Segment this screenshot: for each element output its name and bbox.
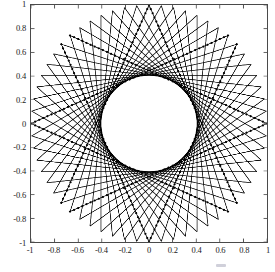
x-tick-label: 0.4	[192, 245, 202, 255]
x-tick-label: 0	[147, 245, 151, 255]
y-tick-label: -0.6	[0, 190, 26, 200]
x-tick-label: -1	[27, 245, 34, 255]
y-tick-label: 0.2	[0, 95, 26, 105]
x-tick-label: 1	[266, 245, 270, 255]
x-tick-label: -0.6	[71, 245, 84, 255]
y-tick-label: 1	[0, 0, 26, 9]
x-tick-label: -0.2	[119, 245, 132, 255]
y-tick-label: -1	[0, 238, 26, 248]
y-tick-label: -0.2	[0, 142, 26, 152]
faint-watermark-mark	[216, 264, 226, 267]
y-tick-label: -0.4	[0, 166, 26, 176]
y-tick-label: 0.6	[0, 47, 26, 57]
x-tick-label: 0.6	[215, 245, 225, 255]
y-tick-label: 0.8	[0, 23, 26, 33]
y-tick-label: 0.4	[0, 71, 26, 81]
spirograph-plot-canvas	[31, 5, 267, 242]
y-tick-label: -0.8	[0, 214, 26, 224]
x-tick-label: 0.2	[168, 245, 178, 255]
plot-axes-box	[30, 4, 268, 243]
figure-container: -1-0.8-0.6-0.4-0.200.20.40.60.81 10.80.6…	[0, 0, 275, 272]
x-tick-label: -0.8	[47, 245, 60, 255]
x-tick-label: 0.8	[239, 245, 249, 255]
x-tick-label: -0.4	[95, 245, 108, 255]
y-tick-label: 0	[0, 119, 26, 129]
